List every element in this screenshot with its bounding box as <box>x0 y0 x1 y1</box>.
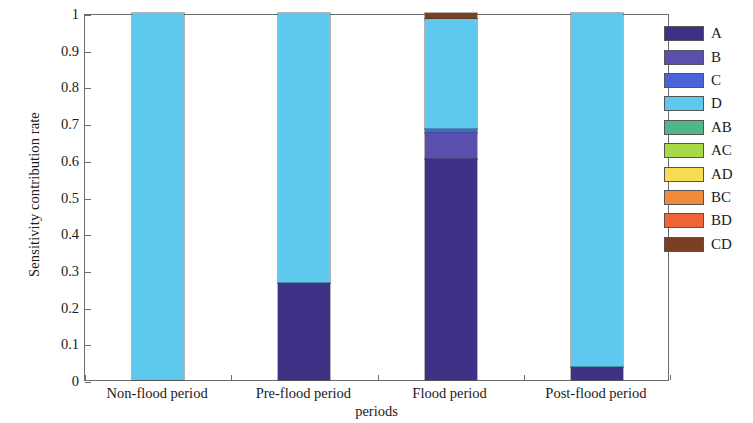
y-axis-tick-label: 0.9 <box>61 43 79 60</box>
bar-segment-d[interactable] <box>132 13 184 380</box>
y-axis-tick: 0.3 <box>85 272 91 273</box>
y-axis-tick-label: 0.6 <box>61 153 79 170</box>
x-axis-category-label: Post-flood period <box>506 385 686 402</box>
legend-item-a[interactable]: A <box>664 22 750 45</box>
y-axis-tick: 0.5 <box>85 199 91 200</box>
legend-color-swatch <box>664 50 704 65</box>
y-axis-tick: 0 <box>85 382 91 383</box>
legend-label: C <box>711 73 721 88</box>
legend-color-swatch <box>664 96 704 111</box>
legend-label: B <box>711 50 721 65</box>
x-axis-tick <box>670 375 671 380</box>
bar-segment-d[interactable] <box>425 19 477 129</box>
y-axis-tick-label: 1 <box>72 6 79 23</box>
y-axis-tick-label: 0.4 <box>61 226 79 243</box>
legend-color-swatch <box>664 143 704 158</box>
legend-label: AC <box>711 143 732 158</box>
x-axis-tick <box>85 375 86 380</box>
y-axis-tick: 0.7 <box>85 125 91 126</box>
legend-item-ac[interactable]: AC <box>664 139 750 162</box>
stacked-bar[interactable] <box>425 13 477 380</box>
legend-color-swatch <box>664 167 704 182</box>
legend-label: D <box>711 96 722 111</box>
y-axis-tick: 0.2 <box>85 309 91 310</box>
legend-color-swatch <box>664 190 704 205</box>
bar-segment-d[interactable] <box>278 13 330 283</box>
bar-segment-a[interactable] <box>571 367 623 380</box>
stacked-bar[interactable] <box>132 13 184 380</box>
y-axis-tick-label: 0.5 <box>61 190 79 207</box>
x-axis-tick <box>231 375 232 380</box>
legend-label: A <box>711 26 722 41</box>
y-axis-tick: 0.9 <box>85 52 91 53</box>
bar-segment-d[interactable] <box>571 13 623 367</box>
legend-color-swatch <box>664 26 704 41</box>
legend-item-bc[interactable]: BC <box>664 186 750 209</box>
legend-item-cd[interactable]: CD <box>664 233 750 256</box>
x-axis-tick <box>378 375 379 380</box>
chart-legend: ABCDABACADBCBDCD <box>664 22 750 256</box>
legend-color-swatch <box>664 213 704 228</box>
y-axis-tick: 0.8 <box>85 88 91 89</box>
plot-area: 00.10.20.30.40.50.60.70.80.91 <box>84 14 669 381</box>
legend-label: BD <box>711 213 732 228</box>
stacked-bar[interactable] <box>571 13 623 380</box>
y-axis-tick-label: 0.7 <box>61 116 79 133</box>
legend-item-ad[interactable]: AD <box>664 162 750 185</box>
legend-label: BC <box>711 190 731 205</box>
legend-color-swatch <box>664 237 704 252</box>
legend-item-d[interactable]: D <box>664 92 750 115</box>
legend-label: AD <box>711 167 733 182</box>
legend-label: CD <box>711 237 732 252</box>
bar-segment-a[interactable] <box>278 283 330 380</box>
bar-segment-b[interactable] <box>425 133 477 159</box>
bar-segment-a[interactable] <box>425 159 477 380</box>
y-axis-tick-label: 0.3 <box>61 263 79 280</box>
stacked-bar[interactable] <box>278 13 330 380</box>
y-axis-title: Sensitivity contribution rate <box>26 45 43 345</box>
legend-item-ab[interactable]: AB <box>664 116 750 139</box>
y-axis-tick-label: 0.2 <box>61 300 79 317</box>
chart-figure: Sensitivity contribution rate 00.10.20.3… <box>0 0 753 423</box>
y-axis-tick: 1 <box>85 15 91 16</box>
y-axis-tick-label: 0.8 <box>61 79 79 96</box>
legend-item-bd[interactable]: BD <box>664 209 750 232</box>
legend-color-swatch <box>664 73 704 88</box>
legend-color-swatch <box>664 120 704 135</box>
y-axis-tick: 0.1 <box>85 345 91 346</box>
y-axis-tick: 0.6 <box>85 162 91 163</box>
x-axis-tick <box>524 375 525 380</box>
y-axis-tick-label: 0.1 <box>61 336 79 353</box>
legend-item-c[interactable]: C <box>664 69 750 92</box>
y-axis-tick: 0.4 <box>85 235 91 236</box>
x-axis-title: periods <box>0 403 753 420</box>
legend-label: AB <box>711 120 732 135</box>
legend-item-b[interactable]: B <box>664 45 750 68</box>
